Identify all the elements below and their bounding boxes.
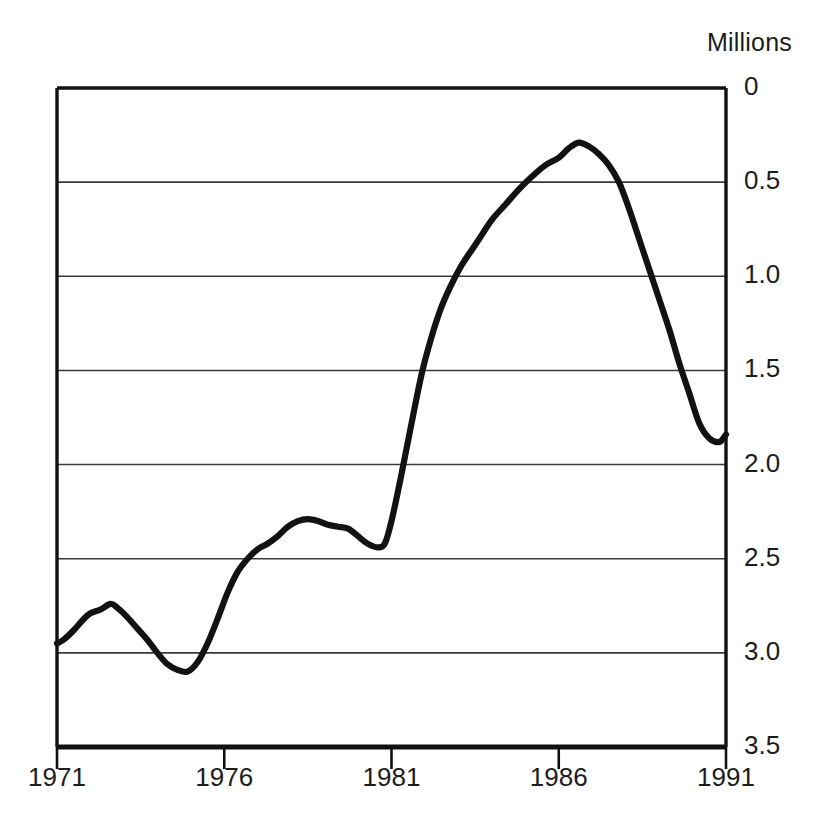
chart-container: Millions 3.53.02.52.01.51.00.50 19711976…	[0, 0, 831, 839]
y-axis-tick-label: 3.5	[744, 730, 780, 761]
data-series-group	[57, 143, 726, 673]
x-axis-tick-label: 1976	[195, 762, 253, 793]
y-axis-tick-label: 0.5	[744, 165, 780, 196]
y-axis-tick-label: 2.5	[744, 542, 780, 573]
y-axis-tick-label: 2.0	[744, 448, 780, 479]
line-chart-plot	[0, 0, 831, 839]
y-axis-tick-label: 1.5	[744, 353, 780, 384]
y-axis-tick-label: 1.0	[744, 259, 780, 290]
data-line	[57, 143, 726, 673]
y-axis-tick-label: 0	[744, 71, 758, 102]
gridlines-group	[57, 182, 726, 653]
x-axis-tick-label: 1971	[28, 762, 86, 793]
x-axis-tick-label: 1981	[363, 762, 421, 793]
y-axis-tick-label: 3.0	[744, 636, 780, 667]
x-axis-tick-label: 1986	[530, 762, 588, 793]
x-axis-tick-label: 1991	[697, 762, 755, 793]
